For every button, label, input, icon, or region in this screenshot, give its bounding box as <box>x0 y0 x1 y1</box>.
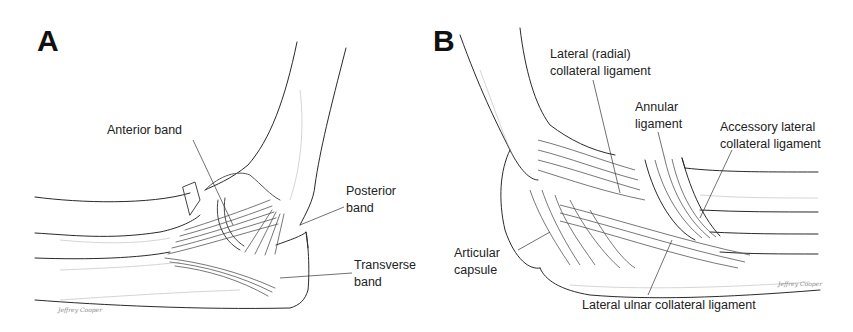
label-articular-line-1: Articular <box>454 245 500 262</box>
label-annular-ligament: Annular ligament <box>635 99 682 133</box>
label-transverse-band: Transverse band <box>354 257 416 291</box>
label-accessory-lateral-collateral-ligament: Accessory lateral collateral ligament <box>720 119 821 153</box>
artist-signature-a: Jeffrey Cooper <box>58 306 102 313</box>
label-accessory-line-1: Accessory lateral <box>720 119 821 136</box>
panel-letter-a: A <box>37 26 59 56</box>
label-posterior-band-line-1: Posterior <box>346 183 396 200</box>
label-transverse-band-line-2: band <box>354 274 416 291</box>
label-annular-line-1: Annular <box>635 99 682 116</box>
label-lateral-radial-collateral-ligament: Lateral (radial) collateral ligament <box>550 46 651 80</box>
panel-a-medial-elbow: A Anterior band Posterior band Transvers… <box>0 0 420 332</box>
panel-b-lateral-elbow: B Lateral (radial) collateral ligament A… <box>420 0 853 332</box>
label-annular-line-2: ligament <box>635 116 682 133</box>
label-posterior-band: Posterior band <box>346 183 396 217</box>
label-accessory-line-2: collateral ligament <box>720 136 821 153</box>
label-anterior-band: Anterior band <box>107 122 182 139</box>
label-lateral-radial-line-1: Lateral (radial) <box>550 46 651 63</box>
label-articular-line-2: capsule <box>454 262 500 279</box>
artist-signature-b: Jeffrey Cooper <box>778 280 822 287</box>
label-posterior-band-line-2: band <box>346 200 396 217</box>
panel-letter-b: B <box>433 26 455 56</box>
label-articular-capsule: Articular capsule <box>454 245 500 279</box>
label-transverse-band-line-1: Transverse <box>354 257 416 274</box>
label-lateral-radial-line-2: collateral ligament <box>550 63 651 80</box>
label-lateral-ulnar-collateral-ligament: Lateral ulnar collateral ligament <box>582 297 756 314</box>
